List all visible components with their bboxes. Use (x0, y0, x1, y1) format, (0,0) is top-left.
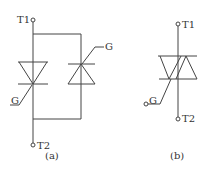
label-gate-right-a: G (105, 41, 113, 52)
t1-terminal-b (176, 22, 180, 26)
label-gate-left-a: G (11, 95, 19, 106)
gate-lead-right-a (82, 47, 104, 64)
t1-terminal-a (31, 18, 35, 22)
label-t2-b: T2 (182, 113, 195, 124)
label-t1-a: T1 (17, 14, 30, 25)
diagram-b (144, 22, 197, 121)
t2-terminal-b (176, 117, 180, 121)
caption-b: (b) (170, 150, 184, 161)
label-gate-b: G (149, 95, 157, 106)
gate-terminal-b (144, 102, 148, 106)
triac-diagram (0, 0, 203, 170)
caption-a: (a) (45, 150, 59, 161)
parallel-loop-a (33, 34, 81, 119)
diagram-a (10, 18, 104, 147)
label-t1-b: T1 (182, 19, 195, 30)
t2-terminal-a (31, 143, 35, 147)
